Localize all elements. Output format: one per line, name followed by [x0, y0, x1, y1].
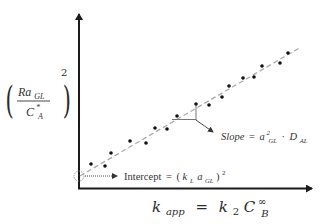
- data-point: [89, 162, 93, 166]
- data-point: [207, 103, 211, 107]
- intercept-label: Intercept = ( k L a GL ) 2: [124, 169, 226, 185]
- data-point: [153, 126, 157, 130]
- regression-diagram: Slope = a 2 GL · D AL Intercept = ( k L …: [0, 0, 325, 224]
- data-point: [227, 84, 231, 88]
- svg-text:(: (: [6, 78, 14, 121]
- data-point: [128, 139, 132, 143]
- data-point: [286, 51, 290, 55]
- svg-text:2: 2: [61, 67, 67, 78]
- fit-line: [80, 47, 301, 176]
- data-point: [165, 127, 169, 131]
- x-axis-label: k app = k 2 C ∞ B: [152, 191, 271, 219]
- data-points: [89, 51, 290, 168]
- svg-text:C * A: C * A: [26, 99, 43, 121]
- slope-arrow: [196, 120, 213, 132]
- data-point: [103, 164, 107, 168]
- data-point: [260, 64, 264, 68]
- data-point: [109, 151, 113, 155]
- data-point: [241, 76, 245, 80]
- data-point: [278, 61, 282, 65]
- data-point: [144, 141, 148, 145]
- data-point: [175, 114, 179, 118]
- svg-text:): ): [63, 78, 71, 121]
- slope-label: Slope = a 2 GL · D AL: [221, 126, 308, 145]
- data-point: [252, 75, 256, 79]
- axes: [78, 14, 312, 189]
- data-point: [220, 95, 224, 99]
- y-axis-label: ( ) Ra GL C * A 2: [6, 67, 71, 122]
